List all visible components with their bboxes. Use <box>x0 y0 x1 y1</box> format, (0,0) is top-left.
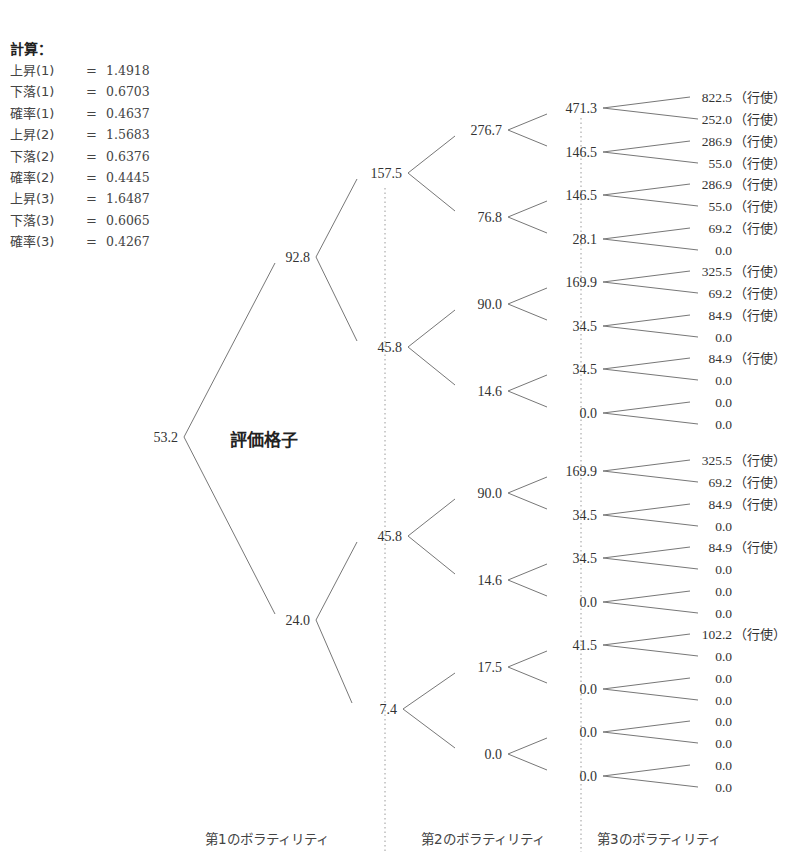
lattice-branch <box>408 536 455 574</box>
lattice-branch <box>603 152 698 163</box>
lattice-node: 146.5 <box>566 188 598 203</box>
lattice-branch <box>603 504 690 515</box>
lattice-leaf-value: 0.0 <box>715 714 732 729</box>
lattice-node: 34.5 <box>573 551 598 566</box>
lattice-leaf-value: 0.0 <box>715 330 732 345</box>
lattice-branch <box>403 709 455 748</box>
lattice-branch <box>603 369 698 380</box>
lattice-node: 471.3 <box>566 101 598 116</box>
exercise-note: （行使） <box>734 351 786 366</box>
lattice-branch <box>603 326 698 337</box>
lattice-leaf-value: 0.0 <box>715 243 732 258</box>
exercise-note: （行使） <box>734 497 786 512</box>
lattice-branch <box>603 689 698 700</box>
lattice-branch <box>603 460 690 471</box>
valuation-lattice: 53.292.824.0157.545.845.87.4276.776.890.… <box>0 0 804 852</box>
lattice-leaf-value: 69.2 <box>708 221 732 236</box>
lattice-leaf-value: 55.0 <box>708 199 732 214</box>
exercise-note: （行使） <box>734 112 786 127</box>
lattice-branch <box>184 437 275 614</box>
exercise-note: （行使） <box>734 475 786 490</box>
lattice-branch <box>603 765 690 776</box>
lattice-node: 0.0 <box>580 682 598 697</box>
lattice-branch <box>508 651 547 667</box>
lattice-branch <box>508 201 547 217</box>
lattice-node: 0.0 <box>485 747 503 762</box>
lattice-leaf-value: 286.9 <box>702 134 733 149</box>
lattice-leaf-value: 0.0 <box>715 584 732 599</box>
volatility-label-1: 第1のボラティリティ <box>205 828 329 848</box>
lattice-branch <box>603 645 698 656</box>
lattice-leaf-value: 0.0 <box>715 758 732 773</box>
exercise-note: （行使） <box>734 199 786 214</box>
lattice-node: 34.5 <box>573 319 598 334</box>
lattice-branch <box>603 732 698 743</box>
lattice-leaf-value: 822.5 <box>702 90 733 105</box>
exercise-note: （行使） <box>734 453 786 468</box>
lattice-branch <box>508 580 547 596</box>
lattice-leaf-value: 0.0 <box>715 562 732 577</box>
lattice-node: 34.5 <box>573 508 598 523</box>
lattice-branch <box>603 678 690 689</box>
exercise-note: （行使） <box>734 90 786 105</box>
lattice-leaf-value: 0.0 <box>715 417 732 432</box>
lattice-branch <box>603 471 698 482</box>
lattice-leaf-value: 0.0 <box>715 780 732 795</box>
lattice-branch <box>403 673 455 709</box>
lattice-node: 0.0 <box>580 595 598 610</box>
lattice-node: 0.0 <box>580 725 598 740</box>
lattice-node: 90.0 <box>478 486 503 501</box>
exercise-note: （行使） <box>734 134 786 149</box>
lattice-branch <box>508 304 547 320</box>
lattice-node: 146.5 <box>566 145 598 160</box>
lattice-node: 90.0 <box>478 297 503 312</box>
lattice-branch <box>316 620 352 703</box>
exercise-note: （行使） <box>734 627 786 642</box>
lattice-node: 45.8 <box>378 340 403 355</box>
lattice-node: 7.4 <box>380 702 398 717</box>
lattice-leaf-value: 252.0 <box>702 112 733 127</box>
lattice-branch <box>408 499 455 536</box>
lattice-leaf-value: 102.2 <box>702 627 732 642</box>
lattice-branch <box>508 477 547 493</box>
exercise-note: （行使） <box>734 540 786 555</box>
lattice-leaf-value: 0.0 <box>715 373 732 388</box>
lattice-branch <box>603 184 690 195</box>
lattice-branch <box>603 239 698 250</box>
lattice-branch <box>508 130 547 146</box>
lattice-branch <box>603 195 698 206</box>
lattice-branch <box>408 310 455 347</box>
lattice-branch <box>508 667 547 683</box>
lattice-leaf-value: 69.2 <box>708 475 732 490</box>
lattice-node: 92.8 <box>286 250 311 265</box>
lattice-branch <box>603 271 690 282</box>
lattice-branch <box>508 217 547 233</box>
lattice-branch <box>508 564 547 580</box>
lattice-node: 14.6 <box>478 384 503 399</box>
lattice-branch <box>603 776 698 787</box>
lattice-branch <box>508 114 547 130</box>
lattice-leaf-value: 55.0 <box>708 156 732 171</box>
lattice-branch <box>603 358 690 369</box>
lattice-branch <box>316 542 357 620</box>
lattice-branch <box>508 738 547 754</box>
lattice-branch <box>603 141 690 152</box>
lattice-branch <box>184 263 275 437</box>
volatility-label-2: 第2のボラティリティ <box>421 828 545 848</box>
lattice-branch <box>603 634 690 645</box>
lattice-leaf-value: 0.0 <box>715 693 732 708</box>
exercise-note: （行使） <box>734 221 786 236</box>
lattice-node: 17.5 <box>478 660 503 675</box>
lattice-branch <box>603 282 698 293</box>
volatility-label-3: 第3のボラティリティ <box>597 828 721 848</box>
lattice-node: 24.0 <box>286 613 311 628</box>
lattice-branch <box>508 391 547 407</box>
lattice-branch <box>603 602 698 613</box>
lattice-branch <box>603 108 698 119</box>
lattice-node: 76.8 <box>478 210 503 225</box>
lattice-leaf-value: 0.0 <box>715 395 732 410</box>
lattice-branch <box>408 347 455 385</box>
lattice-leaf-value: 0.0 <box>715 736 732 751</box>
lattice-leaf-value: 84.9 <box>708 351 732 366</box>
exercise-note: （行使） <box>734 156 786 171</box>
